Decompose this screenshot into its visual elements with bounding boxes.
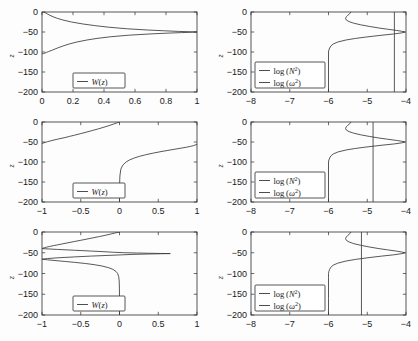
y-tick-label: −100: [227, 47, 247, 57]
y-tick-label: −50: [232, 248, 247, 258]
y-axis-label: z: [216, 54, 225, 59]
y-tick-label: −100: [18, 47, 38, 57]
x-tick-label: −8: [246, 206, 256, 216]
x-tick-label: 0.4: [98, 96, 111, 106]
legend-label: W(z): [92, 300, 108, 310]
x-tick-label: −7: [285, 206, 295, 216]
y-tick-label: −200: [227, 197, 247, 207]
y-tick-label: −150: [18, 289, 38, 299]
x-tick-label: 1: [194, 206, 199, 216]
x-tick-label: 0.5: [152, 206, 165, 216]
y-tick-label: −100: [227, 269, 247, 279]
data-curve: [42, 12, 197, 54]
y-tick-label: −200: [227, 310, 247, 320]
data-curve: [329, 12, 405, 92]
y-tick-label: −150: [227, 67, 247, 77]
y-tick-label: 0: [242, 117, 247, 127]
y-tick-label: −50: [232, 137, 247, 147]
y-tick-label: −200: [18, 87, 38, 97]
x-tick-label: 1: [194, 96, 199, 106]
chart-panel-panel-r2c2: −8−7−6−5−40−50−100−150−200zlog (N2)log (…: [209, 112, 418, 224]
chart-panel-panel-r1c2: −8−7−6−5−40−50−100−150−200zlog (N2)log (…: [209, 2, 418, 114]
x-tick-label: 0: [117, 206, 122, 216]
x-tick-label: −6: [323, 96, 333, 106]
x-tick-label: −6: [323, 206, 333, 216]
y-tick-label: 0: [33, 117, 38, 127]
data-curve: [329, 232, 405, 315]
chart-panel-panel-r3c2: −8−7−6−5−40−50−100−150−200zlog (N2)log (…: [209, 222, 418, 337]
y-tick-label: −200: [18, 197, 38, 207]
x-tick-label: −0.5: [72, 319, 90, 329]
curves-group: [42, 12, 197, 54]
chart-panel-panel-r2c1: −1−0.500.510−50−100−150−200zW(z): [0, 112, 209, 224]
y-axis-label: z: [7, 164, 16, 169]
chart-panel-panel-r3c1: −1−0.500.510−50−100−150−200zW(z): [0, 222, 209, 337]
x-tick-label: −5: [362, 206, 372, 216]
data-curve: [329, 122, 405, 202]
x-tick-label: −4: [401, 96, 411, 106]
x-tick-label: −6: [323, 319, 333, 329]
x-tick-label: −8: [246, 96, 256, 106]
y-axis-label: z: [216, 275, 225, 280]
y-tick-label: −150: [227, 177, 247, 187]
curves-group: [329, 12, 405, 92]
x-tick-label: −7: [285, 319, 295, 329]
chart-panel-panel-r1c1: 00.20.40.60.810−50−100−150−200zW(z): [0, 2, 209, 114]
y-tick-label: 0: [33, 227, 38, 237]
y-tick-label: −100: [227, 157, 247, 167]
x-tick-label: 0: [39, 96, 44, 106]
y-tick-label: −200: [18, 310, 38, 320]
x-tick-label: −5: [362, 96, 372, 106]
legend-label: W(z): [92, 187, 108, 197]
x-tick-label: −4: [401, 206, 411, 216]
y-tick-label: −50: [23, 248, 38, 258]
y-tick-label: −150: [227, 289, 247, 299]
figure-container: 00.20.40.60.810−50−100−150−200zW(z)−8−7−…: [0, 0, 418, 341]
y-tick-label: −200: [227, 87, 247, 97]
y-tick-label: −150: [18, 67, 38, 77]
x-tick-label: −7: [285, 96, 295, 106]
data-curve: [42, 249, 170, 254]
y-tick-label: 0: [33, 7, 38, 17]
x-tick-label: 0.5: [152, 319, 165, 329]
y-tick-label: 0: [242, 7, 247, 17]
x-tick-label: −1: [37, 206, 47, 216]
y-tick-label: −50: [23, 137, 38, 147]
x-tick-label: −5: [362, 319, 372, 329]
x-tick-label: 0.2: [67, 96, 80, 106]
y-tick-label: 0: [242, 227, 247, 237]
y-tick-label: −100: [18, 157, 38, 167]
y-axis-label: z: [216, 164, 225, 169]
x-tick-label: −0.5: [72, 206, 90, 216]
x-tick-label: −8: [246, 319, 256, 329]
data-curve: [42, 122, 120, 144]
y-tick-label: −150: [18, 177, 38, 187]
y-tick-label: −50: [232, 27, 247, 37]
y-axis-label: z: [7, 275, 16, 280]
x-tick-label: 1: [194, 319, 199, 329]
x-tick-label: 0.6: [129, 96, 142, 106]
x-tick-label: 0: [117, 319, 122, 329]
curves-group: [329, 122, 405, 202]
x-tick-label: 0.8: [160, 96, 173, 106]
y-tick-label: −50: [23, 27, 38, 37]
x-tick-label: −4: [401, 319, 411, 329]
y-tick-label: −100: [18, 269, 38, 279]
x-tick-label: −1: [37, 319, 47, 329]
curves-group: [329, 232, 405, 315]
legend-label: W(z): [92, 77, 108, 87]
y-axis-label: z: [7, 54, 16, 59]
data-curve: [42, 254, 170, 260]
data-curve: [120, 144, 198, 202]
